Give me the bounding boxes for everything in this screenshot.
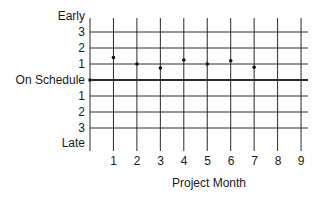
data-point-month-2 (135, 62, 139, 66)
y-label-early: Early (58, 9, 85, 23)
y-label-late-3: 3 (78, 121, 85, 135)
x-tick-3: 3 (153, 154, 169, 168)
data-point-month-4 (182, 58, 186, 62)
x-tick-2: 2 (129, 154, 145, 168)
y-label-on-schedule: On Schedule (16, 73, 85, 87)
y-label-late: Late (62, 136, 85, 150)
data-point-month-3 (159, 66, 163, 70)
data-point-month-1 (112, 56, 116, 60)
y-label-early-1: 1 (78, 57, 85, 71)
y-label-early-2: 2 (78, 41, 85, 55)
y-label-early-3: 3 (78, 25, 85, 39)
data-point-month-0 (88, 78, 92, 82)
x-tick-4: 4 (176, 154, 192, 168)
x-tick-1: 1 (106, 154, 122, 168)
x-tick-8: 8 (270, 154, 286, 168)
x-tick-7: 7 (247, 154, 263, 168)
x-tick-9: 9 (293, 154, 309, 168)
schedule-variance-chart: Early 3 2 1 On Schedule 1 2 3 Late 1 2 3… (0, 0, 321, 200)
grid-lines (90, 18, 308, 151)
x-tick-6: 6 (223, 154, 239, 168)
plot-area (0, 0, 321, 200)
data-point-month-5 (205, 62, 209, 66)
x-axis-title: Project Month (172, 176, 246, 190)
y-label-late-1: 1 (78, 89, 85, 103)
y-label-late-2: 2 (78, 105, 85, 119)
data-point-month-7 (252, 65, 256, 69)
x-tick-5: 5 (200, 154, 216, 168)
data-point-month-6 (229, 59, 233, 63)
